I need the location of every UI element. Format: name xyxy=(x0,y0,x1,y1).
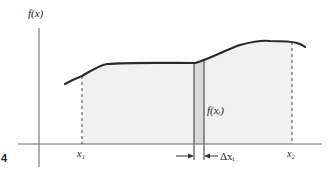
riemann-strip-figure: f(x) x₁ x₂ f(xᵢ) Δxᵢ 4 xyxy=(0,0,334,173)
area-under-curve-diagram xyxy=(0,0,334,173)
delta-arrow-right-head xyxy=(204,154,210,159)
area-under-curve xyxy=(82,41,292,144)
delta-arrow-left-head xyxy=(188,154,194,159)
x2-label: x₂ xyxy=(287,149,295,159)
figure-number: 4 xyxy=(1,152,7,164)
strip-height-label: f(xᵢ) xyxy=(207,105,224,116)
y-axis-label: f(x) xyxy=(28,8,43,19)
x1-label: x₁ xyxy=(77,149,85,159)
riemann-strip xyxy=(194,62,204,144)
delta-x-label: Δxᵢ xyxy=(220,151,234,162)
